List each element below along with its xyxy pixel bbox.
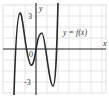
origin-label: 0: [29, 50, 33, 59]
y-axis-label: y: [38, 4, 43, 13]
x-axis-label: x: [102, 39, 107, 48]
y-tick-3: 3: [28, 12, 32, 21]
y-tick-neg3: -3: [24, 78, 31, 87]
function-graph: 3 -3 y x 0 y = f(x): [0, 0, 109, 99]
function-label: y = f(x): [62, 28, 87, 37]
